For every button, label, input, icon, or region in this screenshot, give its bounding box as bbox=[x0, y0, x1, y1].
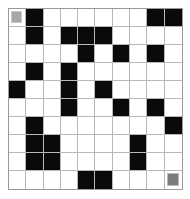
wall-cell[interactable] bbox=[165, 9, 182, 27]
open-cell[interactable] bbox=[44, 9, 61, 27]
open-cell[interactable] bbox=[147, 117, 164, 135]
open-cell[interactable] bbox=[44, 27, 61, 45]
open-cell[interactable] bbox=[78, 63, 95, 81]
wall-cell[interactable] bbox=[95, 27, 112, 45]
open-cell[interactable] bbox=[113, 27, 130, 45]
open-cell[interactable] bbox=[130, 27, 147, 45]
open-cell[interactable] bbox=[44, 81, 61, 99]
open-cell[interactable] bbox=[130, 63, 147, 81]
wall-cell[interactable] bbox=[9, 81, 26, 99]
open-cell[interactable] bbox=[130, 117, 147, 135]
open-cell[interactable] bbox=[26, 99, 43, 117]
open-cell[interactable] bbox=[165, 99, 182, 117]
open-cell[interactable] bbox=[147, 135, 164, 153]
open-cell[interactable] bbox=[61, 171, 78, 189]
wall-cell[interactable] bbox=[78, 45, 95, 63]
open-cell[interactable] bbox=[44, 45, 61, 63]
open-cell[interactable] bbox=[165, 63, 182, 81]
wall-cell[interactable] bbox=[44, 153, 61, 171]
open-cell[interactable] bbox=[9, 117, 26, 135]
open-cell[interactable] bbox=[78, 81, 95, 99]
open-cell[interactable] bbox=[95, 45, 112, 63]
wall-cell[interactable] bbox=[78, 27, 95, 45]
wall-cell[interactable] bbox=[26, 27, 43, 45]
open-cell[interactable] bbox=[113, 117, 130, 135]
open-cell[interactable] bbox=[147, 81, 164, 99]
open-cell[interactable] bbox=[130, 45, 147, 63]
open-cell[interactable] bbox=[44, 63, 61, 81]
start-cell[interactable] bbox=[9, 9, 26, 27]
wall-cell[interactable] bbox=[44, 135, 61, 153]
open-cell[interactable] bbox=[165, 45, 182, 63]
wall-cell[interactable] bbox=[130, 153, 147, 171]
wall-cell[interactable] bbox=[147, 9, 164, 27]
open-cell[interactable] bbox=[44, 117, 61, 135]
wall-cell[interactable] bbox=[113, 45, 130, 63]
open-cell[interactable] bbox=[9, 171, 26, 189]
open-cell[interactable] bbox=[130, 81, 147, 99]
open-cell[interactable] bbox=[165, 81, 182, 99]
open-cell[interactable] bbox=[95, 153, 112, 171]
open-cell[interactable] bbox=[95, 117, 112, 135]
wall-cell[interactable] bbox=[61, 99, 78, 117]
open-cell[interactable] bbox=[95, 63, 112, 81]
open-cell[interactable] bbox=[113, 153, 130, 171]
goal-cell[interactable] bbox=[165, 171, 182, 189]
open-cell[interactable] bbox=[95, 135, 112, 153]
open-cell[interactable] bbox=[130, 9, 147, 27]
open-cell[interactable] bbox=[147, 27, 164, 45]
open-cell[interactable] bbox=[61, 45, 78, 63]
wall-cell[interactable] bbox=[95, 81, 112, 99]
open-cell[interactable] bbox=[78, 117, 95, 135]
open-cell[interactable] bbox=[26, 81, 43, 99]
open-cell[interactable] bbox=[113, 171, 130, 189]
open-cell[interactable] bbox=[9, 45, 26, 63]
open-cell[interactable] bbox=[95, 99, 112, 117]
open-cell[interactable] bbox=[61, 153, 78, 171]
open-cell[interactable] bbox=[26, 45, 43, 63]
open-cell[interactable] bbox=[78, 153, 95, 171]
open-cell[interactable] bbox=[9, 99, 26, 117]
wall-cell[interactable] bbox=[26, 63, 43, 81]
wall-cell[interactable] bbox=[61, 81, 78, 99]
open-cell[interactable] bbox=[95, 9, 112, 27]
open-cell[interactable] bbox=[9, 63, 26, 81]
open-cell[interactable] bbox=[26, 171, 43, 189]
open-cell[interactable] bbox=[113, 81, 130, 99]
wall-cell[interactable] bbox=[26, 117, 43, 135]
open-cell[interactable] bbox=[78, 99, 95, 117]
open-cell[interactable] bbox=[147, 153, 164, 171]
open-cell[interactable] bbox=[9, 135, 26, 153]
open-cell[interactable] bbox=[61, 9, 78, 27]
open-cell[interactable] bbox=[113, 135, 130, 153]
open-cell[interactable] bbox=[165, 135, 182, 153]
wall-cell[interactable] bbox=[26, 135, 43, 153]
wall-cell[interactable] bbox=[26, 9, 43, 27]
open-cell[interactable] bbox=[9, 153, 26, 171]
wall-cell[interactable] bbox=[147, 99, 164, 117]
open-cell[interactable] bbox=[61, 135, 78, 153]
open-cell[interactable] bbox=[113, 9, 130, 27]
wall-cell[interactable] bbox=[147, 45, 164, 63]
wall-cell[interactable] bbox=[165, 117, 182, 135]
wall-cell[interactable] bbox=[130, 135, 147, 153]
wall-cell[interactable] bbox=[95, 171, 112, 189]
open-cell[interactable] bbox=[165, 153, 182, 171]
open-cell[interactable] bbox=[113, 63, 130, 81]
wall-cell[interactable] bbox=[61, 27, 78, 45]
open-cell[interactable] bbox=[147, 63, 164, 81]
open-cell[interactable] bbox=[78, 135, 95, 153]
open-cell[interactable] bbox=[44, 99, 61, 117]
open-cell[interactable] bbox=[130, 171, 147, 189]
open-cell[interactable] bbox=[147, 171, 164, 189]
wall-cell[interactable] bbox=[61, 63, 78, 81]
wall-cell[interactable] bbox=[26, 153, 43, 171]
wall-cell[interactable] bbox=[113, 99, 130, 117]
open-cell[interactable] bbox=[61, 117, 78, 135]
open-cell[interactable] bbox=[130, 99, 147, 117]
open-cell[interactable] bbox=[9, 27, 26, 45]
open-cell[interactable] bbox=[44, 171, 61, 189]
wall-cell[interactable] bbox=[78, 171, 95, 189]
open-cell[interactable] bbox=[165, 27, 182, 45]
open-cell[interactable] bbox=[78, 9, 95, 27]
